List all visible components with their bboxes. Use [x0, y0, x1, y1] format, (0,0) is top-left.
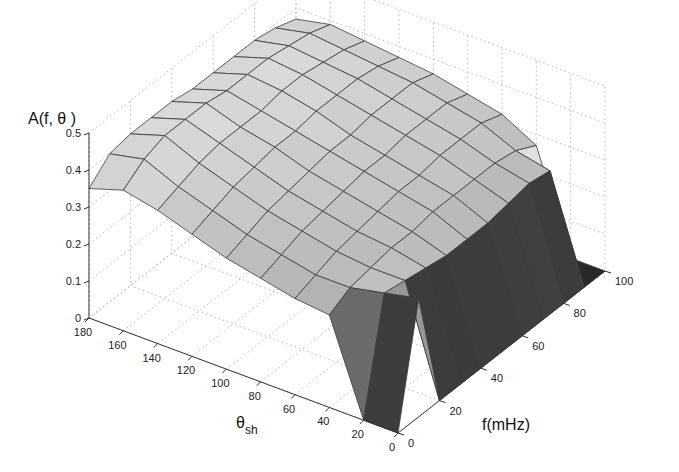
f-tick-label: 0	[408, 437, 414, 449]
theta-tick-label: 0	[389, 441, 395, 453]
theta-tick-label: 20	[352, 428, 364, 440]
theta-tick-label: 80	[249, 390, 261, 402]
theta-tick-label: 140	[142, 352, 160, 364]
theta-symbol: θ	[236, 414, 245, 431]
f-tick-label: 40	[491, 372, 503, 384]
theta-tick-label: 100	[211, 377, 229, 389]
z-tick-label: 0.4	[66, 164, 81, 176]
theta-tick-label: 60	[283, 403, 295, 415]
z-tick-label: 0.5	[66, 127, 81, 139]
z-axis-title: A(f, θ )	[28, 110, 76, 127]
f-tick-label: 100	[615, 275, 633, 287]
f-tick-label: 80	[574, 307, 586, 319]
theta-axis-title: θsh	[236, 414, 258, 437]
f-tick-label: 60	[532, 340, 544, 352]
f-tick-label: 20	[449, 405, 461, 417]
theta-tick-label: 120	[177, 364, 195, 376]
z-tick-label: 0.1	[66, 275, 81, 287]
f-axis-title: f(mHz)	[482, 416, 530, 433]
theta-tick-label: 40	[317, 415, 329, 427]
z-tick-label: 0	[75, 312, 81, 324]
theta-tick-label: 160	[108, 339, 126, 351]
theta-subscript: sh	[245, 423, 258, 437]
theta-tick-label: 180	[74, 326, 92, 338]
z-tick-label: 0.2	[66, 238, 81, 250]
z-tick-label: 0.3	[66, 201, 81, 213]
surface-plot: 00.10.20.30.40.5020406080100120140160180…	[0, 0, 679, 472]
surface-mesh	[89, 19, 605, 433]
